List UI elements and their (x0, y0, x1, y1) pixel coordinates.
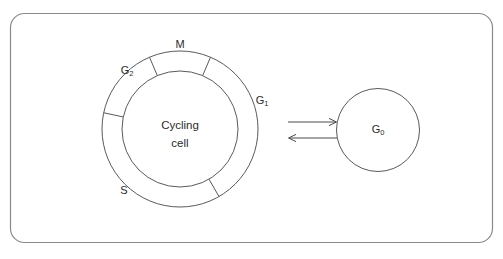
center-label-line2: cell (171, 137, 188, 149)
phase-label-s: S (120, 184, 127, 196)
phase-label-g2-sub: 2 (129, 69, 133, 78)
phase-label-m-text: M (175, 38, 184, 50)
diagram-canvas: M G2 S G1 G0 Cycling cell (0, 0, 503, 259)
phase-label-g1-text: G (256, 94, 265, 106)
quiescent-label-g0-sub: 0 (380, 128, 384, 137)
center-label-line1: Cycling (161, 119, 199, 131)
phase-label-g1-sub: 1 (264, 99, 268, 108)
phase-label-s-text: S (120, 184, 127, 196)
quiescent-label-g0-text: G (372, 123, 381, 135)
phase-label-m: M (175, 38, 184, 50)
phase-label-g2-text: G (121, 64, 130, 76)
cell-cycle-diagram: M G2 S G1 G0 Cycling cell (0, 0, 503, 259)
diagram-border (11, 14, 493, 243)
